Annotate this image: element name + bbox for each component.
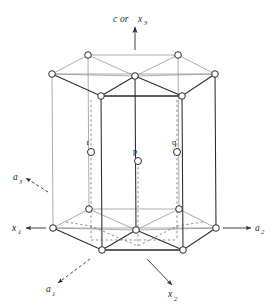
pillar-back-left: [88, 55, 89, 209]
pillar-back-right: [178, 55, 179, 209]
atom-top-hex-center: [132, 73, 139, 80]
axis-label-a3-main: a: [13, 172, 18, 182]
atom-top-hex-left: [49, 71, 56, 78]
bottom-spoke-back-left: [89, 209, 136, 230]
bottom-spoke-back-right: [136, 209, 179, 230]
atom-top-hex-front-left: [98, 93, 105, 100]
axis-label-a2-main: a: [255, 223, 260, 233]
atom-bottom-hex-left: [50, 225, 57, 232]
axis-label-a3: a 3: [13, 172, 23, 185]
atom-top-hex-back-left: [85, 52, 92, 59]
axis-label-a3-subscript: 3: [18, 178, 23, 185]
pillar-far-left: [52, 74, 53, 228]
interior-atom-label-r: r: [87, 137, 90, 147]
atom-top-hex-back-right: [175, 52, 182, 59]
axis-label-c-x3: c or x 3: [113, 14, 148, 26]
atom-bottom-hex-back-right: [176, 206, 183, 213]
interior-atom-q: [174, 149, 181, 156]
axis-label-a1-subscript: 1: [52, 290, 55, 297]
pillar-front-left: [101, 96, 102, 250]
pillar-front-right: [182, 96, 183, 250]
axis-label-x2-main: x: [167, 289, 173, 299]
atom-top-hex-front-right: [179, 93, 186, 100]
top-spoke-front-right: [135, 76, 182, 96]
top-hexagon-back-path: [52, 55, 215, 74]
axis-arrow-a3: [26, 178, 48, 192]
atom-bottom-hex-back-left: [86, 206, 93, 213]
axis-label-a2-subscript: 2: [261, 228, 265, 235]
axis-label-x3-subscript: 3: [143, 19, 148, 26]
interior-atom-label-q: q: [172, 137, 177, 147]
crystal-structure-figure: r p q c or x 3 a 2 x 1 a 3 a 1 x: [0, 0, 279, 307]
atom-bottom-hex-front-left: [99, 247, 106, 254]
atom-top-hex-right: [212, 71, 219, 78]
atom-bottom-hex-center: [133, 227, 140, 234]
top-spoke-front-left: [101, 76, 135, 96]
top-spoke-back-right: [135, 55, 178, 76]
axis-arrow-a1: [58, 259, 90, 283]
pillar-far-right: [215, 74, 216, 228]
axis-label-a1-main: a: [46, 284, 51, 294]
axis-label-x1-subscript: 1: [18, 228, 21, 235]
atom-bottom-hex-front-right: [180, 247, 187, 254]
axis-label-x2: x 2: [167, 289, 178, 302]
axis-label-a2: a 2: [255, 223, 265, 235]
top-spoke-back-left: [88, 55, 135, 76]
axis-label-x1-main: x: [11, 223, 17, 233]
bottom-hexagon-back-path: [53, 209, 216, 228]
hcp-unit-cell-drawing: r p q c or x 3 a 2 x 1 a 3 a 1 x: [0, 0, 279, 307]
axis-label-x1: x 1: [11, 223, 21, 235]
interior-atom-r: [88, 149, 95, 156]
axis-label-x2-subscript: 2: [174, 295, 178, 302]
back-edges-group: [52, 55, 216, 230]
interior-atom-label-p: p: [133, 146, 137, 156]
atom-bottom-hex-right: [213, 225, 220, 232]
axis-label-x3: x: [137, 14, 143, 24]
axis-label-c: c: [113, 14, 118, 24]
axis-label-or: or: [120, 14, 129, 24]
axis-arrow-x2: [147, 259, 172, 285]
axis-label-a1: a 1: [46, 284, 55, 297]
interior-atom-p: [135, 158, 142, 165]
